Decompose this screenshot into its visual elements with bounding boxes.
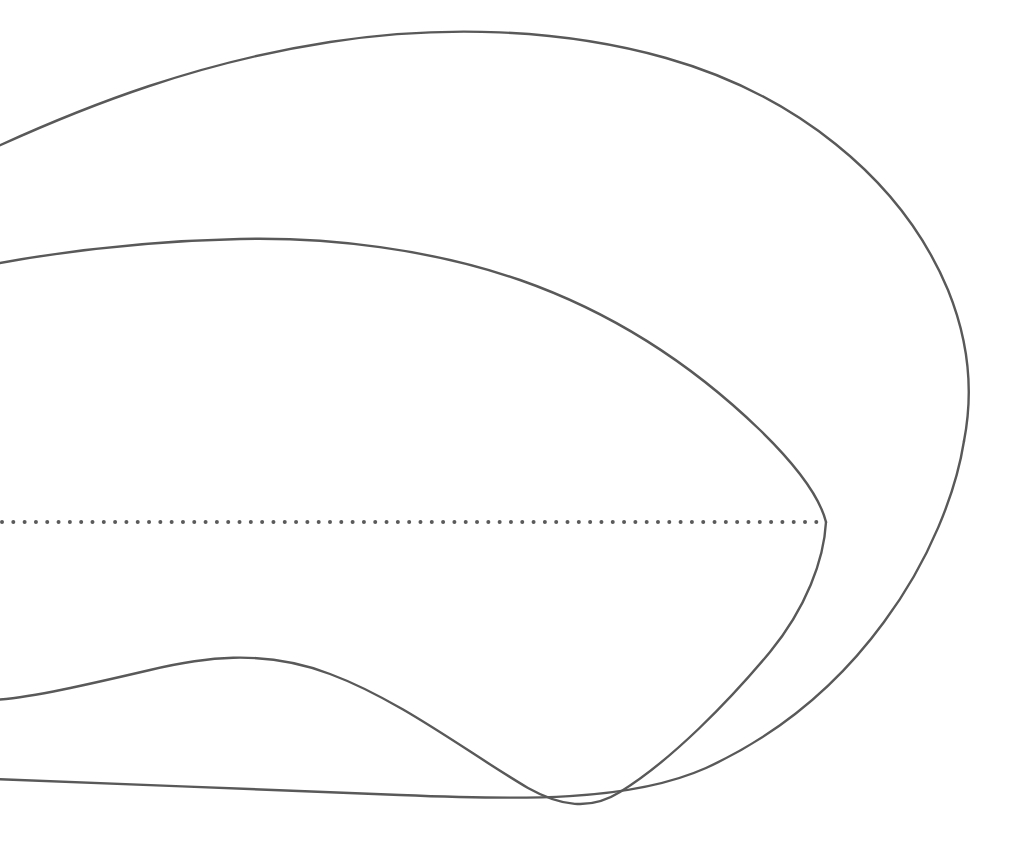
background-rect <box>0 0 1024 860</box>
contour-diagram <box>0 0 1024 860</box>
figure-canvas <box>0 0 1024 860</box>
